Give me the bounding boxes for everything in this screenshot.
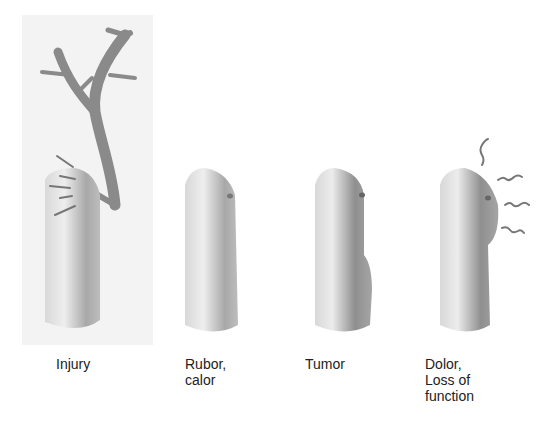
- finger-rubor-calor: [185, 168, 238, 332]
- label-tumor: Tumor: [305, 356, 345, 372]
- label-line: Rubor,: [185, 356, 226, 372]
- label-line: Injury: [56, 356, 90, 372]
- label-line: calor: [185, 372, 226, 388]
- finger-tumor: [315, 168, 372, 332]
- label-line: function: [425, 388, 474, 404]
- label-line: Dolor,: [425, 356, 474, 372]
- finger-dolor: [440, 168, 498, 332]
- label-line: Tumor: [305, 356, 345, 372]
- finger-injured: [45, 156, 100, 328]
- label-rubor-calor: Rubor, calor: [185, 356, 226, 388]
- label-dolor: Dolor, Loss of function: [425, 356, 474, 404]
- label-line: Loss of: [425, 372, 474, 388]
- label-injury: Injury: [56, 356, 90, 372]
